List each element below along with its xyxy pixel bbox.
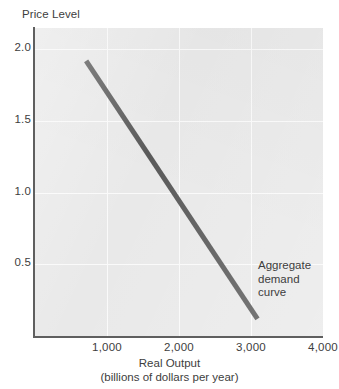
demand-curve-line <box>86 61 257 319</box>
y-tick-label: 2.0 <box>3 41 31 53</box>
y-axis-line <box>33 27 35 337</box>
x-axis-subtitle: (billions of dollars per year) <box>0 371 339 383</box>
x-tick-label: 3,000 <box>221 341 281 353</box>
x-tick-label: 1,000 <box>77 341 137 353</box>
x-axis-line <box>33 336 323 338</box>
x-tick-label: 4,000 <box>293 341 339 353</box>
annotation-line-1: Aggregate <box>258 259 311 273</box>
x-axis-title: Real Output <box>0 357 339 369</box>
y-axis-tick-labels: 2.01.51.00.5 <box>0 0 31 389</box>
y-tick-label: 1.0 <box>3 185 31 197</box>
annotation-line-2: demand <box>258 273 311 287</box>
aggregate-demand-chart: Price Level 2.01.51.00.5 1,0002,0003,000… <box>0 0 339 389</box>
series-group <box>86 61 257 319</box>
annotation-line-3: curve <box>258 286 311 300</box>
x-tick-label: 2,000 <box>149 341 209 353</box>
y-tick-label: 1.5 <box>3 113 31 125</box>
y-tick-label: 0.5 <box>3 256 31 268</box>
aggregate-demand-curve-label: Aggregate demand curve <box>258 259 311 300</box>
